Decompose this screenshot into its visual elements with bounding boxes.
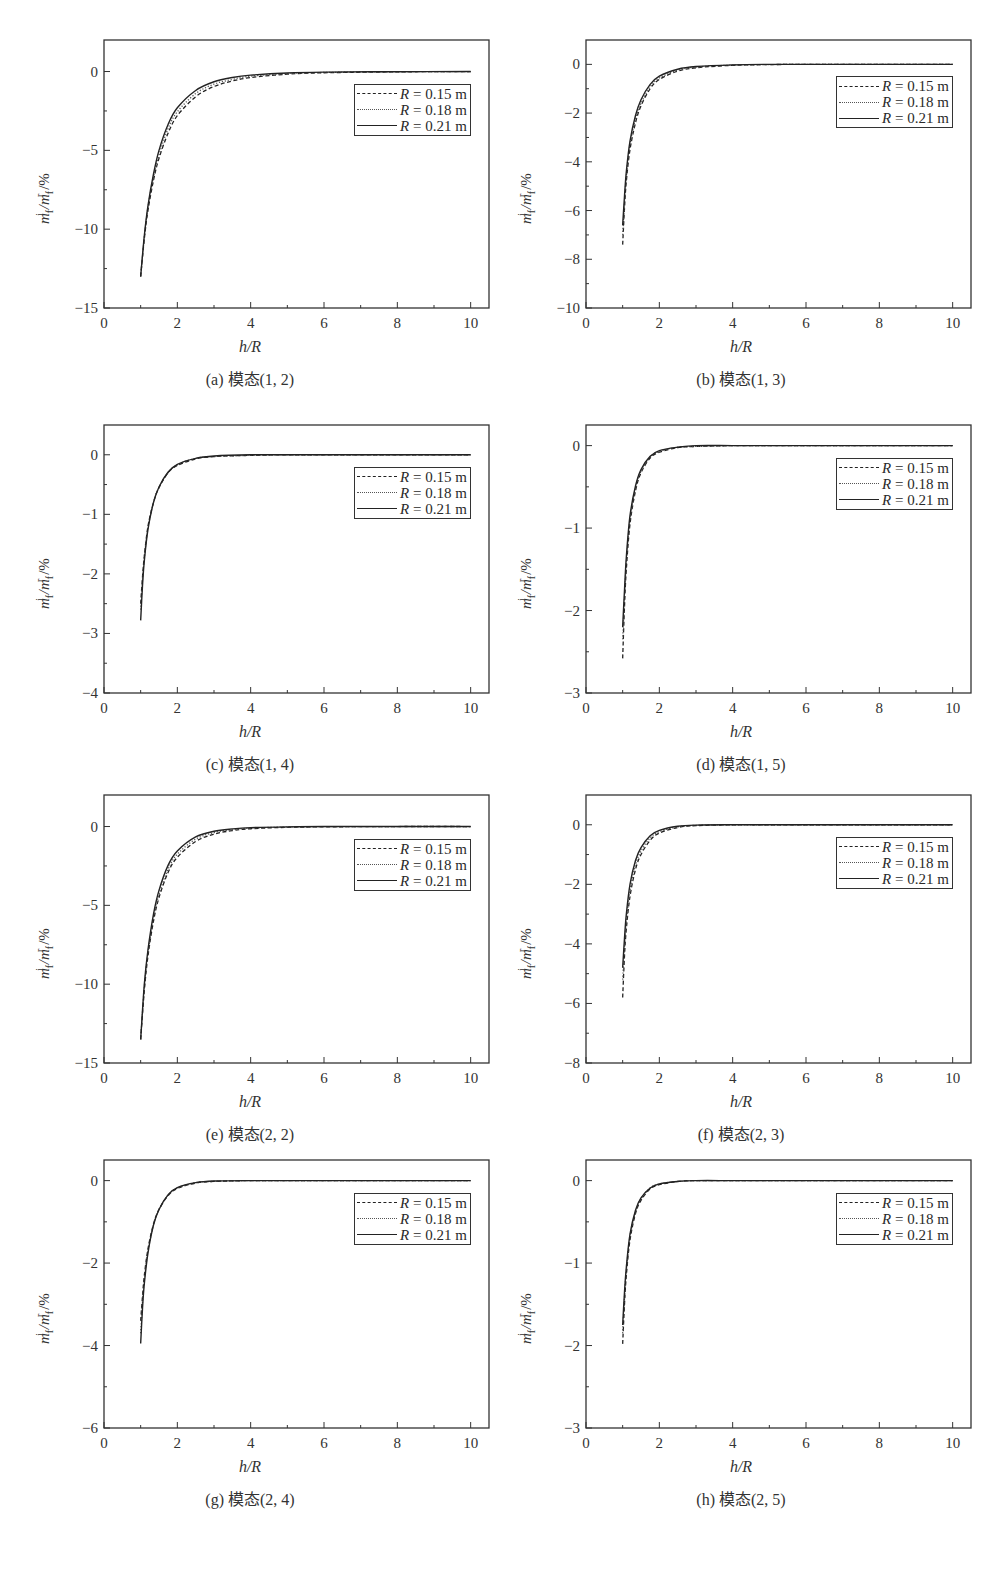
x-axis-label: h/R (491, 1093, 991, 1111)
y-axis-label: mfi /mfr /% (34, 1293, 55, 1344)
legend-item: R = 0.15 m (839, 1195, 949, 1211)
x-axis-label: h/R (0, 1458, 500, 1476)
x-tick-label: 8 (394, 700, 402, 716)
y-tick-label: −3 (564, 1420, 580, 1436)
dotted-line-icon (357, 1218, 397, 1219)
legend-item: R = 0.18 m (357, 485, 467, 501)
panel-caption: (a) 模态(1, 2) (0, 366, 500, 390)
x-tick-label: 0 (100, 700, 108, 716)
x-axis-label: h/R (491, 1458, 991, 1476)
dotted-line-icon (839, 862, 879, 863)
panel-caption: (c) 模态(1, 4) (0, 751, 500, 775)
x-axis-label: h/R (491, 723, 991, 741)
y-tick-label: −6 (564, 995, 580, 1011)
y-axis-label: mfi /mfr /% (516, 173, 537, 224)
solid-line-icon (839, 499, 879, 500)
x-tick-label: 4 (729, 700, 737, 716)
y-tick-label: 0 (91, 1173, 99, 1189)
x-tick-label: 8 (876, 700, 884, 716)
x-tick-label: 10 (463, 700, 478, 716)
solid-line-icon (839, 1234, 879, 1235)
y-tick-label: −2 (564, 105, 580, 121)
x-tick-label: 6 (802, 1070, 810, 1086)
legend-item: R = 0.18 m (839, 476, 949, 492)
y-tick-label: −8 (564, 251, 580, 267)
y-tick-label: −6 (564, 203, 580, 219)
legend: R = 0.15 m R = 0.18 m R = 0.21 m (354, 1193, 471, 1245)
x-tick-label: 0 (100, 315, 108, 331)
x-tick-label: 2 (656, 1435, 664, 1451)
x-tick-label: 2 (174, 315, 182, 331)
legend: R = 0.15 m R = 0.18 m R = 0.21 m (354, 839, 471, 891)
x-tick-label: 10 (463, 315, 478, 331)
dashed-line-icon (357, 1202, 397, 1203)
y-tick-label: −2 (82, 1255, 98, 1271)
y-tick-label: 0 (91, 819, 99, 835)
y-tick-label: −3 (564, 685, 580, 701)
x-tick-label: 2 (656, 1070, 664, 1086)
chart-panel-f: 02468100−2−4−6−8 mfi /mfr /% R = 0.15 m … (500, 785, 1000, 1155)
x-tick-label: 4 (729, 1070, 737, 1086)
solid-line-icon (839, 118, 879, 119)
y-tick-label: 0 (573, 56, 581, 72)
x-tick-label: 2 (174, 700, 182, 716)
x-tick-label: 4 (729, 315, 737, 331)
legend-item: R = 0.21 m (839, 871, 949, 887)
x-tick-label: 4 (729, 1435, 737, 1451)
x-tick-label: 2 (174, 1435, 182, 1451)
x-tick-label: 0 (582, 1070, 590, 1086)
y-tick-label: −1 (564, 1255, 580, 1271)
dotted-line-icon (839, 483, 879, 484)
y-tick-label: −15 (75, 300, 98, 316)
legend-item: R = 0.15 m (839, 460, 949, 476)
x-tick-label: 8 (876, 1435, 884, 1451)
x-tick-label: 4 (247, 1070, 255, 1086)
legend: R = 0.15 m R = 0.18 m R = 0.21 m (354, 84, 471, 136)
y-tick-label: −1 (564, 520, 580, 536)
x-tick-label: 6 (320, 315, 328, 331)
y-tick-label: −15 (75, 1055, 98, 1071)
legend-item: R = 0.15 m (357, 86, 467, 102)
plot-svg: 02468100−5−10−15 (0, 785, 500, 1125)
x-tick-label: 0 (100, 1070, 108, 1086)
dashed-line-icon (357, 848, 397, 849)
x-tick-label: 2 (656, 315, 664, 331)
y-tick-label: −4 (82, 685, 98, 701)
x-tick-label: 2 (656, 700, 664, 716)
dashed-line-icon (839, 467, 879, 468)
x-axis-label: h/R (0, 338, 500, 356)
legend-item: R = 0.18 m (839, 1211, 949, 1227)
legend-item: R = 0.21 m (839, 110, 949, 126)
x-tick-label: 4 (247, 1435, 255, 1451)
y-tick-label: 0 (91, 64, 99, 80)
dashed-line-icon (357, 476, 397, 477)
y-tick-label: −2 (82, 566, 98, 582)
chart-panel-b: 02468100−2−4−6−8−10 mfi /mfr /% R = 0.15… (500, 30, 1000, 400)
x-tick-label: 10 (463, 1435, 478, 1451)
y-axis-label: mfi /mfr /% (516, 928, 537, 979)
chart-panel-h: 02468100−1−2−3 mfi /mfr /% R = 0.15 m R … (500, 1150, 1000, 1520)
solid-line-icon (357, 1234, 397, 1235)
figure-caption-cutoff (0, 1570, 1003, 1590)
legend-item: R = 0.21 m (357, 118, 467, 134)
x-tick-label: 6 (802, 700, 810, 716)
legend-item: R = 0.18 m (839, 855, 949, 871)
legend-item: R = 0.15 m (357, 1195, 467, 1211)
x-tick-label: 10 (463, 1070, 478, 1086)
x-tick-label: 8 (876, 1070, 884, 1086)
solid-line-icon (357, 125, 397, 126)
y-tick-label: −3 (82, 625, 98, 641)
x-tick-label: 8 (876, 315, 884, 331)
y-axis-label: mfi /mfr /% (34, 558, 55, 609)
legend: R = 0.15 m R = 0.18 m R = 0.21 m (836, 837, 953, 889)
x-tick-label: 6 (320, 1070, 328, 1086)
legend: R = 0.15 m R = 0.18 m R = 0.21 m (836, 458, 953, 510)
y-tick-label: −4 (564, 154, 580, 170)
y-axis-label: mfi /mfr /% (516, 558, 537, 609)
y-tick-label: −4 (564, 936, 580, 952)
panel-caption: (g) 模态(2, 4) (0, 1486, 500, 1510)
legend-item: R = 0.15 m (839, 839, 949, 855)
y-tick-label: 0 (573, 817, 581, 833)
x-tick-label: 10 (945, 1070, 960, 1086)
chart-panel-g: 02468100−2−4−6 mfi /mfr /% R = 0.15 m R … (0, 1150, 500, 1520)
